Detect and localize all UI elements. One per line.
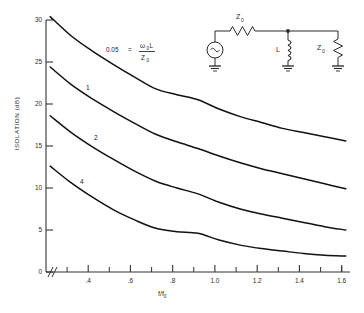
x-tick-label: .8 xyxy=(170,277,176,284)
x-minor-tick-marks xyxy=(67,267,342,272)
y-tick-label: 20 xyxy=(35,100,43,107)
x-tick-labels: .4 .6 .8 1.0 1.2 1.4 1.6 xyxy=(86,277,347,284)
y-tick-label: 5 xyxy=(38,226,42,233)
y-tick-label: 15 xyxy=(35,142,43,149)
annotation-denominator-main: Z xyxy=(141,54,145,61)
inductor-icon xyxy=(288,40,291,61)
inductor-label: L xyxy=(276,46,280,53)
x-axis-title-sub: 0 xyxy=(164,294,167,299)
x-tick-label: 1.0 xyxy=(210,277,219,284)
y-tick-marks xyxy=(46,20,53,272)
y-tick-label: 25 xyxy=(35,58,43,65)
circuit-labels: Z 0 L Z 0 xyxy=(236,13,325,54)
curve-label-1: 1 xyxy=(86,84,90,91)
y-tick-labels: 0 5 10 15 20 25 30 xyxy=(35,16,43,275)
load-impedance-sub: 0 xyxy=(322,48,325,54)
curve-0 xyxy=(50,17,346,141)
curve-1 xyxy=(50,67,346,189)
x-tick-label: 1.2 xyxy=(253,277,262,284)
x-tick-label: 1.4 xyxy=(295,277,304,284)
annotation-formula: 0.05 = ω 0 L Z 0 xyxy=(106,42,155,63)
annotation-omega: ω xyxy=(140,42,145,49)
plot-svg: 0 5 10 15 20 25 30 xyxy=(0,0,364,313)
ground-icon-load xyxy=(332,66,344,71)
annotation-equals: = xyxy=(128,46,132,53)
curve-label-2: 2 xyxy=(94,134,98,141)
y-tick-label: 30 xyxy=(35,16,43,23)
y-tick-label: 0 xyxy=(38,268,42,275)
ground-icon-inductor xyxy=(282,66,294,71)
annotation-numerator-main: L xyxy=(150,42,154,49)
series-resistor-icon xyxy=(230,27,255,36)
y-tick-label: 10 xyxy=(35,184,43,191)
annotation-value: 0.05 xyxy=(106,46,119,53)
y-axis-title: ISOLATION (dB) xyxy=(13,74,20,174)
x-tick-marks xyxy=(88,265,342,272)
x-axis-title: f/f0 xyxy=(158,290,167,299)
x-tick-label: 1.6 xyxy=(337,277,346,284)
curve-label-4: 4 xyxy=(80,178,84,185)
sine-wave-icon xyxy=(211,48,220,52)
x-tick-label: .6 xyxy=(128,277,134,284)
series-impedance-sub: 0 xyxy=(241,17,244,23)
load-resistor-icon xyxy=(334,39,343,58)
x-tick-label: .4 xyxy=(86,277,92,284)
ground-icon-source xyxy=(209,66,221,71)
curve-3 xyxy=(50,166,346,256)
annotation-denominator-sub: 0 xyxy=(147,58,150,63)
figure: ISOLATION (dB) f/f0 0 5 10 15 xyxy=(0,0,364,313)
